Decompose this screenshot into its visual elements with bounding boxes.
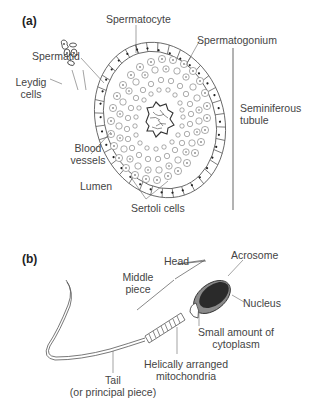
label-lumen: Lumen [80, 180, 112, 192]
label-middle-piece: Middle piece [120, 271, 156, 295]
label-blood-vessels: Blood vessels [68, 142, 108, 166]
label-spermatocyte: Spermatocyte [106, 13, 171, 25]
label-leydig-cells: Leydig cells [12, 76, 50, 100]
panel-b-label: (b) [22, 252, 37, 266]
label-acrosome: Acrosome [231, 249, 278, 261]
label-nucleus: Nucleus [243, 297, 281, 309]
middle-piece-drawing [145, 313, 185, 343]
label-head: Head [164, 255, 189, 267]
label-sertoli-cells: Sertoli cells [131, 202, 185, 214]
label-small-amount-cytoplasm: Small amount of cytoplasm [196, 326, 276, 350]
label-seminiferous-tubule: Seminiferous tubule [240, 102, 301, 126]
sperm-head-drawing [187, 274, 236, 320]
label-tail: Tail (or principal piece) [68, 374, 158, 398]
label-spermatogonium: Spermatogonium [197, 34, 277, 46]
label-spermatid: Spermatid [32, 50, 80, 62]
